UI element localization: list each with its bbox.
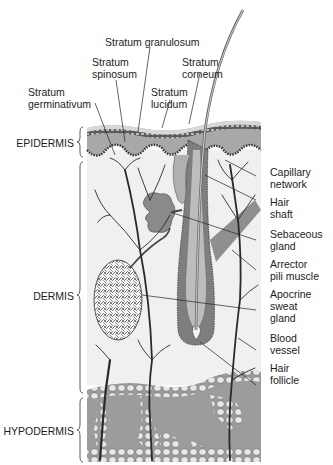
label-apocrine-sweat-gland: Apocrine sweat gland xyxy=(270,288,311,324)
region-brackets xyxy=(77,127,83,462)
label-dermis: DERMIS xyxy=(2,290,74,302)
label-sebaceous-gland: Sebaceous gland xyxy=(270,228,323,252)
label-capillary-network: Capillary network xyxy=(270,166,311,190)
label-stratum-spinosum: Stratum spinosum xyxy=(92,56,137,80)
label-stratum-lucidum: Stratum lucidum xyxy=(151,86,188,110)
label-stratum-germinativum: Stratum germinativum xyxy=(28,86,91,110)
apocrine-sweat-gland-shape xyxy=(94,260,142,340)
skin-diagram: Stratum granulosum Stratum spinosum Stra… xyxy=(0,0,333,465)
label-stratum-corneum: Stratum corneum xyxy=(182,56,223,80)
label-blood-vessel: Blood vessel xyxy=(270,332,300,356)
label-stratum-granulosum: Stratum granulosum xyxy=(105,36,200,48)
label-hair-shaft: Hair shaft xyxy=(270,196,293,220)
label-hair-follicle: Hair follicle xyxy=(270,362,299,386)
label-hypodermis: HYPODERMIS xyxy=(2,425,74,437)
label-epidermis: EPIDERMIS xyxy=(2,137,74,149)
label-arrector-pili-muscle: Arrector pili muscle xyxy=(270,258,319,282)
